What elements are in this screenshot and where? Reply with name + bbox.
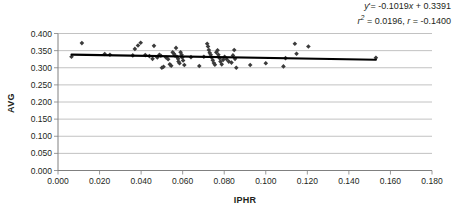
x-tick-label: 0.080 (214, 176, 236, 186)
data-point (263, 61, 268, 66)
y-tick-label: 0.000 (31, 166, 53, 176)
x-tick-labels-group: 0.0000.0200.0400.0600.0800.1000.1200.140… (47, 176, 443, 186)
y-tick-labels-group: 0.0000.0500.1000.1500.2000.2500.3000.350… (31, 29, 53, 176)
scatter-chart: y'= -0.1019x + 0.3391 r2 = 0.0196, r = -… (0, 0, 459, 206)
x-tick-label: 0.120 (297, 176, 319, 186)
data-point (248, 63, 253, 68)
x-tick-label: 0.040 (130, 176, 152, 186)
x-tick-label: 0.000 (47, 176, 69, 186)
x-tick-label: 0.180 (421, 176, 443, 186)
data-point (150, 57, 155, 62)
y-tick-label: 0.350 (31, 46, 53, 56)
y-tick-label: 0.200 (31, 97, 53, 107)
y-tick-label: 0.050 (31, 148, 53, 158)
y-tick-label: 0.300 (31, 63, 53, 73)
data-point (232, 48, 237, 53)
x-tick-label: 0.160 (380, 176, 402, 186)
data-point (80, 41, 85, 46)
data-point (152, 44, 157, 49)
plot-canvas: 0.0000.0500.1000.1500.2000.2500.3000.350… (0, 0, 459, 206)
data-point (234, 65, 239, 70)
y-tick-label: 0.100 (31, 131, 53, 141)
x-tick-label: 0.020 (89, 176, 111, 186)
y-tick-label: 0.250 (31, 80, 53, 90)
data-point (174, 46, 179, 51)
y-tick-label: 0.400 (31, 29, 53, 39)
data-point (293, 41, 298, 46)
data-point (182, 63, 187, 68)
data-point (306, 44, 311, 49)
x-tick-label: 0.140 (338, 176, 360, 186)
x-tick-label: 0.100 (255, 176, 277, 186)
data-point (294, 51, 299, 56)
x-tick-label: 0.060 (172, 176, 194, 186)
y-tick-label: 0.150 (31, 114, 53, 124)
